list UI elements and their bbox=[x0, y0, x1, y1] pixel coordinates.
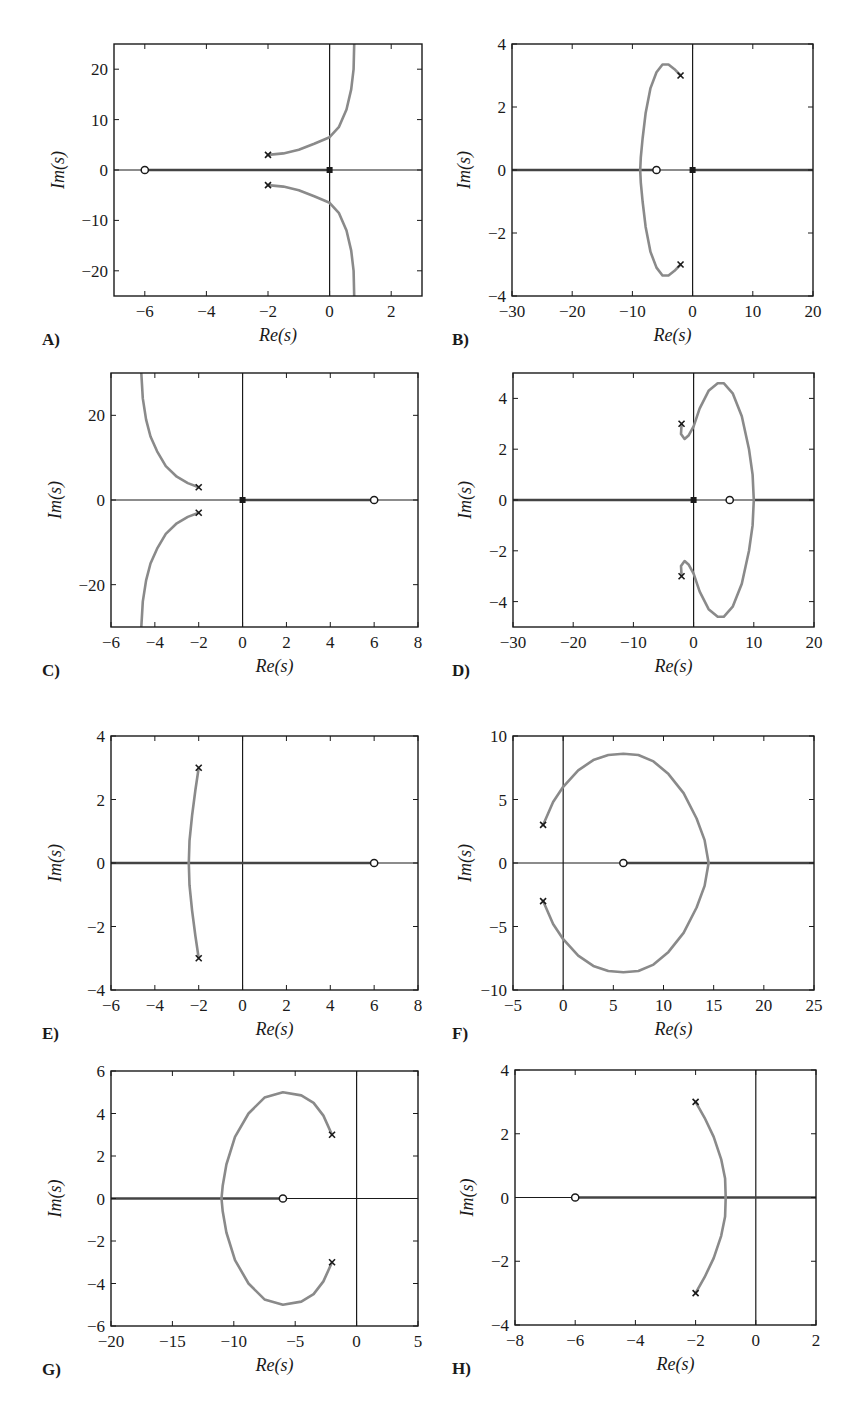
x-tick-label: 20 bbox=[805, 302, 822, 321]
x-tick-label: −2 bbox=[687, 1331, 705, 1350]
y-tick-label: −4 bbox=[489, 593, 508, 612]
panel-letter: G) bbox=[42, 1360, 61, 1379]
y-axis-label: Im(s) bbox=[455, 481, 476, 520]
y-tick-label: 0 bbox=[501, 1189, 510, 1208]
chart-panel-d: −30−20−1001020−4−2024Re(s)Im(s)D) bbox=[452, 373, 823, 680]
y-tick-label: 0 bbox=[97, 1190, 106, 1209]
x-tick-label: −5 bbox=[286, 1332, 304, 1351]
y-tick-label: 4 bbox=[97, 1105, 106, 1124]
origin-pole-marker bbox=[691, 497, 697, 503]
y-axis-label: Im(s) bbox=[454, 151, 475, 190]
x-tick-label: −2 bbox=[190, 633, 208, 652]
x-tick-label: 5 bbox=[609, 996, 618, 1015]
y-tick-label: −2 bbox=[87, 918, 105, 937]
x-tick-label: 0 bbox=[689, 633, 698, 652]
origin-pole-marker bbox=[327, 167, 333, 173]
chart-panel-h: −8−6−4−202−4−2024Re(s)Im(s)H) bbox=[452, 1061, 820, 1378]
zero-marker bbox=[653, 166, 660, 173]
y-tick-label: 2 bbox=[97, 1147, 106, 1166]
y-tick-label: 2 bbox=[499, 440, 508, 459]
y-tick-label: 0 bbox=[498, 161, 507, 180]
y-tick-label: −20 bbox=[81, 262, 108, 281]
locus-branch-1 bbox=[141, 373, 198, 487]
y-tick-label: 5 bbox=[499, 791, 508, 810]
locus-branch-2 bbox=[141, 513, 198, 627]
x-tick-label: 2 bbox=[387, 302, 396, 321]
x-tick-label: 6 bbox=[370, 996, 379, 1015]
locus-branch-2 bbox=[640, 170, 680, 276]
x-axis-label: Re(s) bbox=[258, 325, 297, 346]
zero-axes bbox=[515, 1070, 816, 1325]
x-tick-label: −30 bbox=[500, 633, 527, 652]
panel-letter: D) bbox=[452, 661, 470, 680]
y-tick-label: −4 bbox=[87, 1275, 106, 1294]
y-axis-label: Im(s) bbox=[45, 1180, 66, 1219]
y-tick-label: 20 bbox=[88, 406, 105, 425]
x-tick-label: −10 bbox=[221, 1332, 248, 1351]
zero-marker bbox=[141, 166, 148, 173]
x-tick-label: 0 bbox=[752, 1331, 761, 1350]
y-tick-label: −10 bbox=[480, 981, 507, 1000]
x-tick-label: 0 bbox=[325, 302, 334, 321]
x-tick-label: 2 bbox=[812, 1331, 821, 1350]
x-axis-label: Re(s) bbox=[255, 1019, 294, 1040]
chart-panel-b: −30−20−1001020−4−2024Re(s)Im(s)B) bbox=[452, 35, 822, 349]
locus-branch-1 bbox=[543, 754, 709, 863]
x-tick-label: 0 bbox=[559, 996, 568, 1015]
x-tick-label: 8 bbox=[414, 996, 423, 1015]
panel-letter: F) bbox=[452, 1024, 468, 1043]
y-tick-label: 0 bbox=[97, 854, 106, 873]
x-tick-label: 20 bbox=[755, 996, 772, 1015]
locus-branch-1 bbox=[222, 1092, 333, 1198]
zero-marker bbox=[726, 496, 733, 503]
y-axis-label: Im(s) bbox=[457, 1179, 478, 1218]
y-tick-label: 0 bbox=[499, 854, 508, 873]
x-tick-label: 10 bbox=[744, 302, 761, 321]
x-tick-label: −6 bbox=[566, 1331, 584, 1350]
x-tick-label: 15 bbox=[705, 996, 722, 1015]
x-tick-label: −4 bbox=[146, 996, 165, 1015]
y-tick-label: 4 bbox=[499, 389, 508, 408]
y-tick-label: 6 bbox=[97, 1062, 106, 1081]
x-tick-label: 20 bbox=[806, 633, 823, 652]
y-tick-label: 4 bbox=[97, 727, 106, 746]
x-tick-label: 0 bbox=[352, 1332, 361, 1351]
x-tick-label: −20 bbox=[559, 302, 586, 321]
x-axis-label: Re(s) bbox=[654, 656, 693, 677]
zero-marker bbox=[279, 1195, 286, 1202]
pole-marker bbox=[678, 262, 684, 268]
x-tick-label: 4 bbox=[326, 996, 335, 1015]
x-axis-label: Re(s) bbox=[656, 1354, 695, 1375]
y-tick-label: −2 bbox=[87, 1232, 105, 1251]
chart-panel-a: −6−4−202−20−1001020Re(s)Im(s)A) bbox=[42, 44, 422, 349]
x-tick-label: 10 bbox=[655, 996, 672, 1015]
locus-branch-2 bbox=[268, 185, 354, 296]
x-tick-label: 0 bbox=[688, 302, 697, 321]
x-tick-label: −4 bbox=[146, 633, 165, 652]
panel-letter: H) bbox=[452, 1359, 471, 1378]
locus-branch-2 bbox=[222, 1199, 333, 1305]
y-tick-label: 10 bbox=[490, 727, 507, 746]
x-axis-label: Re(s) bbox=[653, 325, 692, 346]
x-tick-label: 8 bbox=[414, 633, 423, 652]
x-tick-label: −15 bbox=[159, 1332, 186, 1351]
panel-letter: A) bbox=[42, 330, 60, 349]
zero-marker bbox=[371, 496, 378, 503]
figure-canvas: −6−4−202−20−1001020Re(s)Im(s)A)−30−20−10… bbox=[0, 0, 857, 1412]
y-tick-label: 4 bbox=[501, 1061, 510, 1080]
chart-panel-g: −20−15−10−505−6−4−20246Re(s)Im(s)G) bbox=[42, 1062, 422, 1379]
panel-letter: B) bbox=[452, 330, 469, 349]
zero-marker bbox=[371, 859, 378, 866]
x-tick-label: −20 bbox=[560, 633, 587, 652]
y-tick-label: −2 bbox=[488, 224, 506, 243]
x-tick-label: −4 bbox=[197, 302, 216, 321]
y-tick-label: −2 bbox=[489, 542, 507, 561]
y-tick-label: 0 bbox=[100, 161, 109, 180]
y-tick-label: 0 bbox=[499, 491, 508, 510]
x-tick-label: 25 bbox=[806, 996, 823, 1015]
x-tick-label: 6 bbox=[370, 633, 379, 652]
chart-panel-c: −6−4−202468−20020Re(s)Im(s)C) bbox=[42, 373, 422, 680]
y-tick-label: −4 bbox=[491, 1316, 510, 1335]
y-tick-label: −4 bbox=[87, 981, 106, 1000]
x-tick-label: −6 bbox=[136, 302, 154, 321]
